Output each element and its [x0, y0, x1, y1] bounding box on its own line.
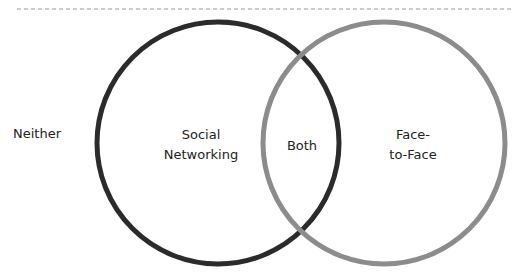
both-label: Both: [287, 136, 317, 156]
face-to-face-label-line-2: to-Face: [389, 145, 436, 165]
venn-diagram-graphic: [0, 0, 520, 276]
face-to-face-label: Face- to-Face: [389, 125, 436, 165]
social-networking-label-line-1: Social: [164, 125, 238, 145]
venn-diagram: Neither Social Networking Both Face- to-…: [0, 0, 520, 276]
face-to-face-label-line-1: Face-: [389, 125, 436, 145]
neither-label-text: Neither: [13, 124, 61, 144]
social-networking-label: Social Networking: [164, 125, 238, 165]
social-networking-label-line-2: Networking: [164, 145, 238, 165]
neither-label: Neither: [13, 124, 61, 144]
both-label-text: Both: [287, 136, 317, 156]
